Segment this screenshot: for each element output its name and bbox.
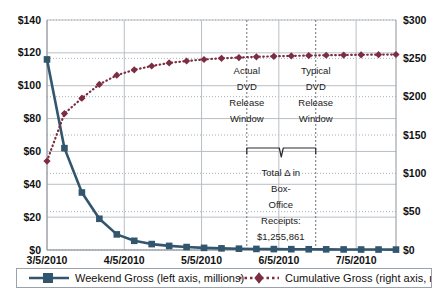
data-point xyxy=(236,245,243,252)
x-axis-tick-label: 6/5/2010 xyxy=(258,254,299,266)
data-point xyxy=(253,246,260,253)
legend-marker-weekend-gross xyxy=(43,273,53,283)
left-axis-tick-label: $140 xyxy=(18,14,42,26)
legend-label-weekend-gross: Weekend Gross (left axis, millions) xyxy=(75,272,244,284)
data-point xyxy=(358,246,365,253)
left-axis-tick-label: $60 xyxy=(23,145,41,157)
right-axis-tick-label: $200 xyxy=(403,90,427,102)
left-axis-tick-label: $120 xyxy=(18,46,42,58)
right-axis-tick-label: $150 xyxy=(403,129,427,141)
data-point xyxy=(323,246,330,253)
legend-marker-cumulative-gross xyxy=(254,272,263,284)
data-point xyxy=(392,51,399,58)
data-point xyxy=(148,241,155,248)
right-axis-tick-label: $250 xyxy=(403,52,427,64)
delta-brace xyxy=(247,148,316,157)
annotation-line: DVD xyxy=(237,81,257,92)
data-point xyxy=(235,54,242,61)
annotation-line: Release xyxy=(229,97,264,108)
annotation-line: Typical xyxy=(301,65,331,76)
data-point xyxy=(183,57,190,64)
annotation-line: Release xyxy=(298,97,333,108)
legend-label-cumulative-gross: Cumulative Gross (right axis, millions) xyxy=(285,272,431,284)
data-point xyxy=(166,59,173,66)
data-point xyxy=(96,215,103,222)
right-axis-tick-label: $100 xyxy=(403,167,427,179)
right-axis-tick-label: $0 xyxy=(403,244,415,256)
data-point xyxy=(218,245,225,252)
chart-container: $0$20$40$60$80$100$120$140$0$50$100$150$… xyxy=(0,0,448,298)
annotation-line: Actual xyxy=(234,65,260,76)
data-point xyxy=(375,51,382,58)
data-point xyxy=(218,55,225,62)
x-axis-tick-label: 7/5/2010 xyxy=(336,254,377,266)
annotation-line: Box- xyxy=(271,183,291,194)
annotation-line: Total Δ in xyxy=(262,167,301,178)
series-cumulative-gross xyxy=(43,51,399,165)
series-line-1 xyxy=(47,55,396,162)
chart-legend: Weekend Gross (left axis, millions) Cumu… xyxy=(16,268,432,288)
data-point xyxy=(201,245,208,252)
annotation-typical-dvd-release-window: TypicalDVDReleaseWindow xyxy=(298,65,333,124)
x-axis-tick-label: 5/5/2010 xyxy=(181,254,222,266)
data-point xyxy=(375,246,382,253)
annotation-line: DVD xyxy=(306,81,326,92)
legend-content: Weekend Gross (left axis, millions) Cumu… xyxy=(17,269,431,287)
left-axis-tick-label: $100 xyxy=(18,79,42,91)
legend-item-cumulative-gross: Cumulative Gross (right axis, millions) xyxy=(239,272,431,284)
left-axis-tick-label: $20 xyxy=(23,211,41,223)
box-office-gross-chart: $0$20$40$60$80$100$120$140$0$50$100$150$… xyxy=(0,0,448,298)
data-point xyxy=(148,62,155,69)
data-point xyxy=(131,66,138,73)
x-axis-tick-label: 3/5/2010 xyxy=(27,254,68,266)
left-axis-tick-label: $80 xyxy=(23,112,41,124)
annotation-line: Receipts: xyxy=(261,215,301,226)
annotation-total-delta-box-office-receipts: Total Δ inBox-OfficeReceipts:$1,255,861 xyxy=(257,167,305,242)
data-point xyxy=(166,243,173,250)
data-point xyxy=(44,56,51,63)
data-point xyxy=(253,53,260,60)
legend-item-weekend-gross: Weekend Gross (left axis, millions) xyxy=(29,272,244,284)
data-point xyxy=(271,246,278,253)
data-point xyxy=(183,244,190,251)
data-point xyxy=(340,246,347,253)
annotation-line: Window xyxy=(299,113,333,124)
data-point xyxy=(131,238,138,245)
data-point xyxy=(114,231,121,238)
right-axis-tick-label: $50 xyxy=(403,205,421,217)
annotation-line: Office xyxy=(269,199,294,210)
annotation-line: $1,255,861 xyxy=(257,231,305,242)
right-axis-tick-label: $300 xyxy=(403,14,427,26)
data-point xyxy=(61,145,68,152)
data-point xyxy=(305,246,312,253)
data-point xyxy=(270,53,277,60)
x-axis-tick-label: 4/5/2010 xyxy=(104,254,145,266)
data-point xyxy=(358,51,365,58)
data-point xyxy=(61,110,68,117)
data-point xyxy=(393,246,400,253)
annotation-actual-dvd-release-window: ActualDVDReleaseWindow xyxy=(229,65,264,124)
data-point xyxy=(43,157,50,164)
left-axis-tick-label: $40 xyxy=(23,178,41,190)
annotation-line: Window xyxy=(230,113,264,124)
data-point xyxy=(288,246,295,253)
data-point xyxy=(79,189,86,196)
